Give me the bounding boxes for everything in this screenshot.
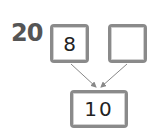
arrow-left-icon <box>71 64 96 87</box>
whole-box: 10 <box>70 90 128 128</box>
arrow-right-icon <box>101 64 127 87</box>
whole-value: 10 <box>84 97 113 121</box>
